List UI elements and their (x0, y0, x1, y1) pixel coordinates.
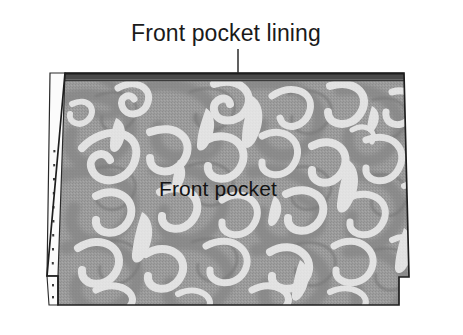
bottom-left-notch (47, 276, 58, 305)
pattern-piece-drawing (0, 0, 463, 335)
front-pocket-label: Front pocket (159, 176, 277, 201)
pattern-illustration-figure: Front pocket lining Front pocket (0, 0, 463, 335)
front-pocket-lining-label: Front pocket lining (131, 20, 321, 47)
top-hem-band (65, 73, 404, 82)
